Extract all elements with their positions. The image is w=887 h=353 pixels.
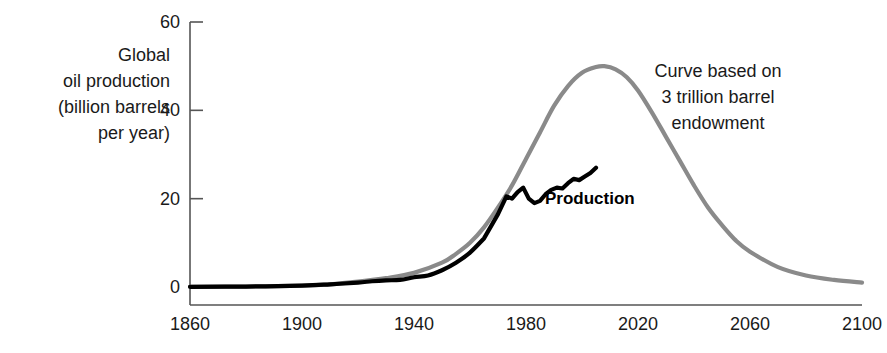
data-series-group [190,66,862,287]
x-tick-label: 1980 [506,314,546,334]
x-tick-label: 1900 [282,314,322,334]
y-tick-label: 0 [170,277,180,297]
chart-page: Global oil production (billion barrels p… [0,0,887,353]
x-tick-label: 2020 [618,314,658,334]
axes-group [190,22,862,305]
x-tick-label: 2100 [842,314,882,334]
y-tick-label: 20 [160,189,180,209]
model-curve-path [190,66,862,287]
x-tick-label: 1860 [170,314,210,334]
y-tick-label: 60 [160,12,180,32]
y-tick-label: 40 [160,100,180,120]
production-curve-path [190,168,596,287]
y-axis-ticks: 6040200 [160,12,203,297]
chart-plot-area: 6040200 1860190019401980202020602100 [0,0,887,353]
x-axis-ticks: 1860190019401980202020602100 [170,305,882,334]
x-tick-label: 2060 [730,314,770,334]
x-tick-label: 1940 [394,314,434,334]
